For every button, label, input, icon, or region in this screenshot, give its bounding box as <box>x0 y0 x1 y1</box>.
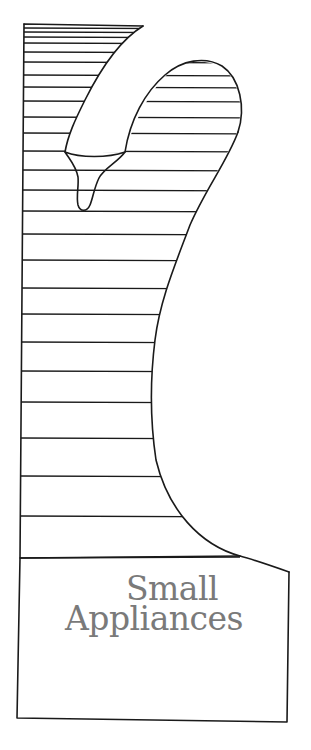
iron-body-left-curve <box>65 26 143 152</box>
left-edge <box>20 24 24 558</box>
iron-body-arch <box>125 60 241 152</box>
title-line-appliances: Appliances <box>17 604 289 634</box>
section-title: Small Appliances <box>17 574 289 634</box>
iron-right-curve <box>151 132 289 572</box>
hatch-lines <box>20 24 300 517</box>
top-edge <box>24 24 143 26</box>
iron-nozzle <box>65 152 125 210</box>
title-box-top-rule <box>20 557 240 558</box>
